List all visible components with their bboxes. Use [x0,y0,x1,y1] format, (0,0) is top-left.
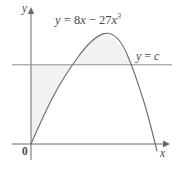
origin-label: 0 [22,146,28,158]
horizontal-line-equals: = [141,49,154,63]
curve-equation-exponent: 3 [117,12,121,21]
curve-equation-label: y = 8x − 27x3 [55,13,121,27]
horizontal-line-label: y = c [136,50,159,62]
x-axis-label: x [160,148,165,160]
shaded-region-left [31,65,73,144]
y-axis-arrowhead [28,7,34,14]
y-axis-label: y [22,3,27,15]
curve-equation-coefficient-2: 27 [99,13,112,27]
calculus-figure: y = 8x − 27x3 y = c y x 0 [0,0,177,171]
horizontal-line-constant: c [154,49,159,63]
shaded-region-above-line [73,34,133,65]
curve-equation-minus: − [86,13,99,27]
curve-equation-equals: = [61,13,74,27]
